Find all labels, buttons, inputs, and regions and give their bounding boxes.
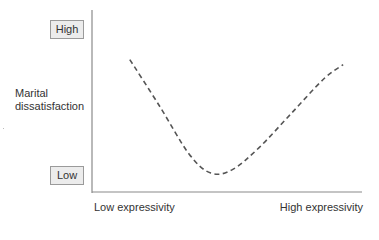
dissatisfaction-curve	[130, 60, 343, 175]
y-high-label-box: High	[50, 20, 84, 39]
y-high-label: High	[56, 23, 79, 35]
y-low-label-box: Low	[50, 166, 84, 185]
y-axis-title-line1: Marital	[15, 87, 84, 100]
x-low-label: Low expressivity	[94, 201, 175, 214]
y-axis-title: Marital dissatisfaction	[15, 87, 84, 113]
scan-artifact-dot	[3, 128, 4, 129]
y-low-label: Low	[57, 169, 77, 181]
x-high-label: High expressivity	[280, 201, 363, 214]
y-axis-title-line2: dissatisfaction	[15, 100, 84, 113]
